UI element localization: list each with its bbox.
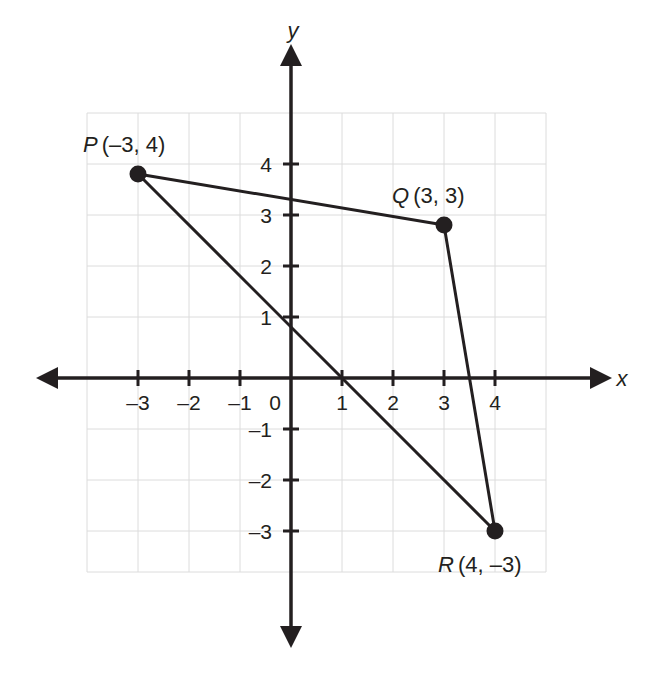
x-axis-label: x: [616, 366, 629, 391]
y-tick-label-4: 4: [260, 153, 272, 176]
point-p-marker: [130, 166, 147, 183]
x-tick-label-1: 1: [336, 391, 348, 414]
point-label-q: Q(3, 3): [392, 183, 464, 208]
point-label-r-coords: (4, –3): [458, 552, 522, 577]
y-tick-label-1: 1: [260, 306, 272, 329]
y-tick-label--3: –3: [249, 520, 272, 543]
point-label-q-letter: Q: [392, 183, 409, 208]
x-tick-label-2: 2: [387, 391, 399, 414]
point-label-r: R(4, –3): [438, 552, 521, 577]
point-label-q-coords: (3, 3): [413, 183, 464, 208]
coordinate-plane-figure: –3 –2 –1 1 2 3 4 4 3 2 1 –1 –2 –3 0 x y …: [0, 0, 648, 687]
point-q-marker: [436, 217, 453, 234]
x-axis: [36, 367, 612, 389]
x-tick-label-4: 4: [489, 391, 501, 414]
x-tick-labels: –3 –2 –1 1 2 3 4: [126, 391, 501, 414]
x-tick-label--1: –1: [228, 391, 251, 414]
y-tick-label--1: –1: [249, 418, 272, 441]
point-label-p-coords: (–3, 4): [102, 132, 166, 157]
y-tick-label-3: 3: [260, 204, 272, 227]
grid: [87, 113, 546, 572]
coordinate-plane-svg: –3 –2 –1 1 2 3 4 4 3 2 1 –1 –2 –3 0 x y …: [0, 0, 648, 687]
point-label-r-letter: R: [438, 552, 454, 577]
origin-label: 0: [269, 391, 281, 414]
y-axis-label: y: [286, 18, 301, 43]
point-label-p: P(–3, 4): [83, 132, 165, 157]
y-tick-label--2: –2: [249, 469, 272, 492]
y-axis: [280, 44, 302, 648]
x-tick-label-3: 3: [438, 391, 450, 414]
x-tick-label--3: –3: [126, 391, 149, 414]
y-tick-label-2: 2: [260, 255, 272, 278]
x-tick-label--2: –2: [177, 391, 200, 414]
point-label-p-letter: P: [83, 132, 98, 157]
point-r-marker: [487, 523, 504, 540]
y-tick-labels: 4 3 2 1 –1 –2 –3: [249, 153, 273, 543]
